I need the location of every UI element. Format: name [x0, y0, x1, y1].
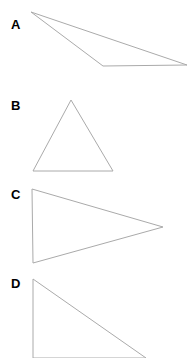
triangle-a [31, 12, 187, 66]
shapes-svg [0, 0, 187, 358]
shape-label-d: D [11, 277, 20, 290]
shape-label-b: B [11, 99, 20, 112]
shape-label-a: A [11, 18, 20, 31]
triangle-d [33, 279, 146, 358]
triangle-c [32, 189, 163, 263]
triangle-b [33, 100, 113, 171]
shape-label-c: C [11, 188, 20, 201]
figure-canvas: A B C D [0, 0, 187, 358]
